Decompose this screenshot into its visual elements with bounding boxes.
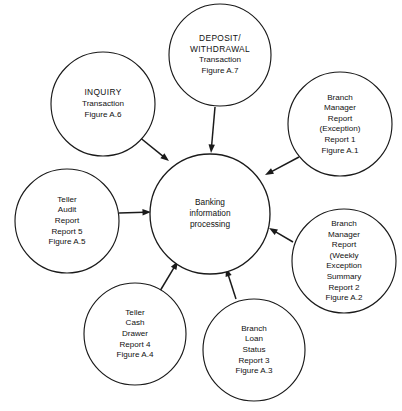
arrow-branch-manager-exception-shaft [271,157,299,172]
arrow-branch-loan-status-shaft [228,274,236,299]
arrow-teller-audit-report-shaft [119,212,145,213]
node-branch-manager-exception[interactable]: BranchManagerReport(Exception)Report 1Fi… [288,72,392,176]
node-branch-loan-status[interactable]: BranchLoanStatusReport 3Figure A.3 [203,299,305,401]
arrow-branch-manager-exception-head [265,168,274,175]
arrow-teller-cash-drawer-shaft [160,266,175,291]
hub-layer: Bankinginformationprocessing [150,154,270,274]
node-label: INQUIRYTransactionFigure A.6 [82,88,124,119]
node-label: Bankinginformationprocessing [189,197,230,229]
arrow-branch-manager-weekly-shaft [274,231,293,242]
banking-information-processing-diagram: DEPOSIT/WITHDRAWALTransactionFigure A.7I… [0,0,402,411]
node-branch-manager-weekly[interactable]: BranchManagerReport(WeeklyExceptionSumma… [292,209,396,313]
arrow-branch-manager-weekly-head [269,228,278,235]
diagram-canvas: DEPOSIT/WITHDRAWALTransactionFigure A.7I… [0,0,402,411]
node-inquiry[interactable]: INQUIRYTransactionFigure A.6 [51,52,155,156]
arrow-deposit-withdrawal-head [209,144,215,153]
node-hub[interactable]: Bankinginformationprocessing [150,154,270,274]
node-teller-audit-report[interactable]: TellerAuditReportReport 5Figure A.5 [15,169,119,273]
arrow-deposit-withdrawal-shaft [212,107,215,147]
node-label: BranchManagerReport(WeeklyExceptionSumma… [326,219,363,302]
node-deposit-withdrawal[interactable]: DEPOSIT/WITHDRAWALTransactionFigure A.7 [169,4,271,106]
node-teller-cash-drawer[interactable]: TellerCashDrawerReport 4Figure A.4 [84,283,186,385]
